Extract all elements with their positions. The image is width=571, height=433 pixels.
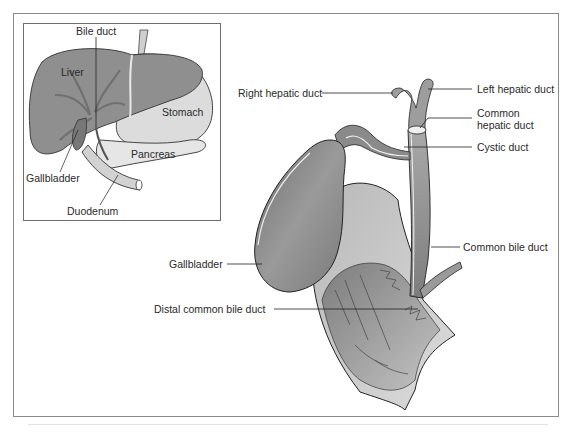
label-gallbladder-main: Gallbladder bbox=[169, 258, 223, 270]
label-duodenum: Duodenum bbox=[67, 205, 118, 217]
label-liver: Liver bbox=[61, 66, 84, 78]
label-stomach: Stomach bbox=[162, 106, 203, 118]
label-bile-duct: Bile duct bbox=[76, 25, 116, 37]
label-distal-common-bile-duct: Distal common bile duct bbox=[154, 303, 265, 315]
label-common-hepatic-duct: Common hepatic duct bbox=[477, 107, 537, 131]
cystic-duct-shape bbox=[335, 125, 410, 160]
label-left-hepatic-duct: Left hepatic duct bbox=[477, 83, 554, 95]
label-right-hepatic-duct: Right hepatic duct bbox=[238, 87, 322, 99]
label-pancreas: Pancreas bbox=[131, 148, 175, 160]
hepatic-ducts-shape bbox=[392, 79, 433, 130]
main-drawing bbox=[227, 79, 472, 410]
common-bile-duct-shape bbox=[408, 128, 430, 298]
label-cystic-duct: Cystic duct bbox=[477, 141, 528, 153]
label-common-bile-duct: Common bile duct bbox=[463, 241, 548, 253]
label-gallbladder-inset: Gallbladder bbox=[26, 172, 80, 184]
